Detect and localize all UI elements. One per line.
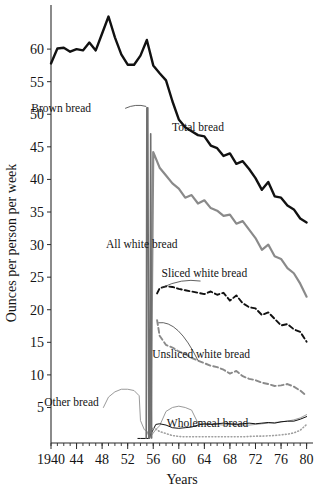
y-tick-label: 35 [30,205,44,220]
x-tick-label: 56 [146,452,160,467]
chart-svg: 5101520253035404550556019404448525660646… [0,0,323,493]
x-axis-title: Years [166,472,197,487]
x-tick-label: 1940 [37,452,65,467]
x-tick-label: 48 [95,452,109,467]
y-tick-label: 45 [30,140,44,155]
y-tick-label: 10 [30,368,44,383]
y-axis-title: Ounces per person per week [4,164,19,323]
x-tick-label: 80 [300,452,314,467]
x-tick-label: 72 [248,452,262,467]
y-tick-label: 5 [37,400,44,415]
x-tick-label: 64 [197,452,211,467]
y-tick-label: 25 [30,270,44,285]
x-tick-label: 60 [172,452,186,467]
y-tick-label: 55 [30,75,44,90]
y-tick-label: 20 [30,303,44,318]
x-tick-label: 52 [121,452,135,467]
series-label-unsliced-white-bread: Unsliced white bread [152,348,250,360]
y-tick-label: 60 [30,42,44,57]
series-label-other-bread: Other bread [44,396,99,408]
series-label-brown-bread: Brown bread [31,102,91,114]
series-label-total-bread: Total bread [172,121,224,133]
series-label-all-white-bread: All white bread [106,238,178,250]
y-tick-label: 30 [30,238,44,253]
series-label-wholemeal-bread: Wholemeal bread [167,417,249,429]
y-tick-label: 15 [30,335,44,350]
x-tick-label: 76 [274,452,288,467]
bread-consumption-chart: 5101520253035404550556019404448525660646… [0,0,323,493]
series-label-sliced-white-bread: Sliced white bread [162,267,248,279]
x-tick-label: 44 [70,452,84,467]
y-tick-label: 40 [30,172,44,187]
x-tick-label: 68 [223,452,237,467]
